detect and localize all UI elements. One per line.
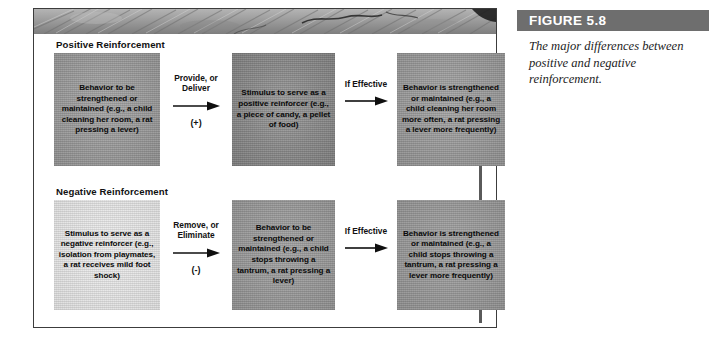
flow-box-text: Stimulus to serve as a negative reinforc… [58, 229, 156, 282]
flow-box-positive-1: Behavior to be strengthened or maintaine… [54, 53, 160, 166]
section-positive-reinforcement: Positive Reinforcement Behavior to be st… [34, 39, 496, 179]
flow-box-text: Behavior is strengthened or maintained (… [401, 83, 501, 136]
arrow-icon [343, 95, 389, 107]
connector-positive-if-effective: If Effective [335, 53, 397, 113]
connector-sign: (-) [192, 265, 201, 275]
arrow-right-icon [343, 95, 389, 107]
arrow-right-icon [171, 100, 221, 112]
connector-label: Remove, or Eliminate [173, 220, 219, 241]
figure-caption: The major differences between positive a… [529, 38, 701, 88]
stone-texture-graphic [34, 9, 496, 34]
figure-frame: Positive Reinforcement Behavior to be st… [33, 8, 497, 328]
connector-negative-remove: Remove, or Eliminate (-) [160, 200, 232, 275]
figure-number-label: FIGURE 5.8 [517, 13, 607, 28]
figure-title-bar: FIGURE 5.8 [517, 10, 709, 31]
flow-row-negative: Stimulus to serve as a negative reinforc… [54, 200, 505, 310]
arrow-icon [171, 247, 221, 259]
connector-positive-provide: Provide, or Deliver (+) [160, 53, 232, 128]
section-title-negative: Negative Reinforcement [56, 186, 168, 197]
diagram-canvas: Positive Reinforcement Behavior to be st… [34, 34, 496, 327]
connector-negative-if-effective: If Effective [335, 200, 397, 260]
connector-label: Provide, or Deliver [174, 73, 218, 94]
section-negative-reinforcement: Negative Reinforcement Stimulus to serve… [34, 186, 496, 326]
arrow-icon [343, 242, 389, 254]
flow-box-text: Behavior is strengthened or maintained (… [401, 229, 501, 282]
arrow-right-icon [171, 247, 221, 259]
flow-box-text: Behavior to be strengthened or maintaine… [236, 223, 331, 287]
connector-label: If Effective [345, 226, 387, 236]
flow-box-negative-3: Behavior is strengthened or maintained (… [397, 200, 505, 310]
arrow-right-icon [343, 242, 389, 254]
connector-label: If Effective [345, 79, 387, 89]
flow-box-text: Behavior to be strengthened or maintaine… [58, 83, 156, 136]
stone-texture-band [34, 9, 496, 34]
flow-box-text: Stimulus to serve as a positive reinforc… [236, 88, 331, 130]
flow-box-positive-3: Behavior is strengthened or maintained (… [397, 53, 505, 166]
section-title-positive: Positive Reinforcement [56, 39, 165, 50]
flow-box-positive-2: Stimulus to serve as a positive reinforc… [232, 53, 335, 166]
flow-box-negative-1: Stimulus to serve as a negative reinforc… [54, 200, 160, 310]
connector-sign: (+) [190, 118, 201, 128]
flow-box-negative-2: Behavior to be strengthened or maintaine… [232, 200, 335, 310]
flow-row-positive: Behavior to be strengthened or maintaine… [54, 53, 505, 166]
arrow-icon [171, 100, 221, 112]
